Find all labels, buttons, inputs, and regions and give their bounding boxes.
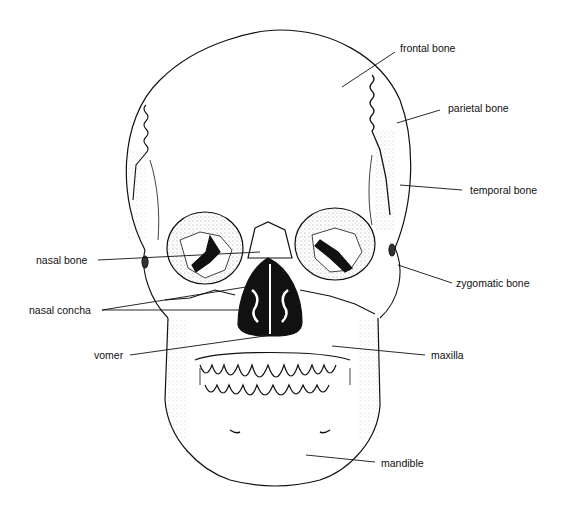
label-parietal-bone: parietal bone — [448, 102, 509, 114]
label-mandible: mandible — [381, 457, 424, 469]
nasal-region — [238, 222, 302, 336]
label-vomer: vomer — [94, 349, 123, 361]
cranium — [126, 30, 410, 250]
label-zygomatic-bone: zygomatic bone — [456, 277, 530, 289]
label-nasal-bone: nasal bone — [36, 254, 87, 266]
label-frontal-bone: frontal bone — [400, 42, 455, 54]
label-nasal-concha: nasal concha — [29, 304, 91, 316]
skull-diagram — [0, 0, 572, 506]
jaw — [165, 318, 380, 486]
label-maxilla: maxilla — [431, 349, 464, 361]
label-temporal-bone: temporal bone — [470, 184, 537, 196]
